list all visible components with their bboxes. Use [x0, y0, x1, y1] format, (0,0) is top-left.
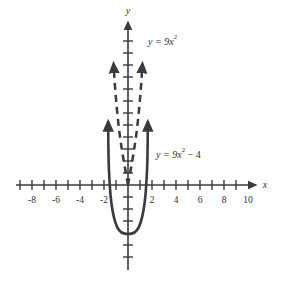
label-parabola-9x2-exponent: 2	[174, 32, 178, 39]
x-tick-label: -4	[76, 195, 84, 205]
coordinate-plane-plot: -8 -6 -4 -2 2 4 6 8 10 x	[0, 0, 281, 282]
label-parabola-9x2-minus-4: y = 9x2 − 4	[155, 145, 201, 160]
x-tick-label: 4	[174, 195, 179, 205]
y-axis-label: y	[125, 5, 131, 16]
x-axis: -8 -6 -4 -2 2 4 6 8 10 x	[16, 179, 268, 205]
x-tick-label: -2	[100, 195, 108, 205]
x-tick-label: 6	[198, 195, 203, 205]
graph-figure: -8 -6 -4 -2 2 4 6 8 10 x	[0, 0, 281, 282]
label-parabola-9x2: y = 9x2	[147, 32, 178, 47]
x-tick-label: -8	[28, 195, 36, 205]
x-tick-label: -6	[52, 195, 60, 205]
curve-parabola-9x2-minus-4-right-branch	[132, 122, 148, 233]
label-parabola-9x2-minus-4-suffix: − 4	[185, 149, 201, 160]
x-tick-label: 8	[222, 195, 227, 205]
y-axis: y	[123, 5, 133, 270]
x-axis-tick-labels: -8 -6 -4 -2 2 4 6 8 10	[28, 195, 253, 205]
curve-parabola-9x2-minus-4-left-branch	[108, 122, 124, 233]
label-parabola-9x2-minus-4-y: y = 9x	[155, 149, 182, 160]
x-tick-label: 2	[150, 195, 155, 205]
label-parabola-9x2-y: y = 9x	[147, 36, 174, 47]
x-axis-label: x	[262, 179, 268, 190]
curve-annotations: y = 9x2 y = 9x2 − 4	[147, 32, 201, 160]
x-tick-label: 10	[243, 195, 253, 205]
